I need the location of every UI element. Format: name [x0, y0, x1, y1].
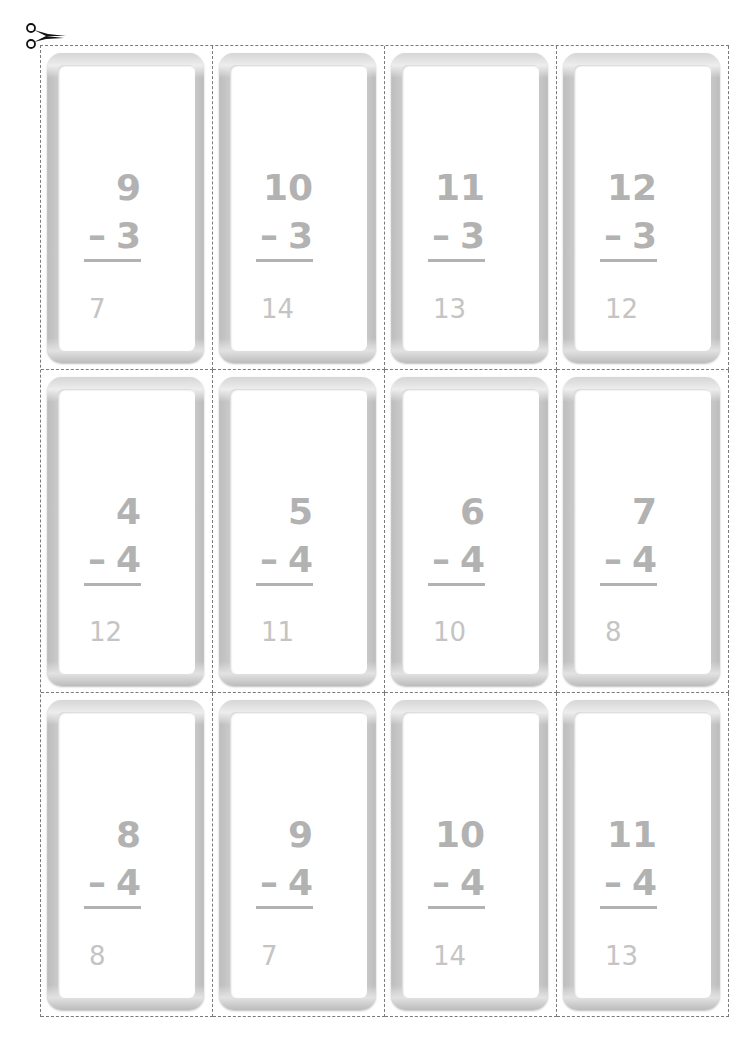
- subtraction-problem: 9 –4: [256, 810, 313, 909]
- answer-number: 13: [433, 296, 466, 322]
- card-frame: 6 –4 10: [391, 377, 548, 687]
- minuend: 11: [428, 163, 485, 213]
- answer-number: 8: [89, 943, 106, 969]
- subtrahend: 4: [632, 539, 657, 580]
- minuend: 4: [84, 487, 141, 537]
- subtrahend: 4: [632, 862, 657, 903]
- subtrahend: 4: [460, 539, 485, 580]
- card-frame: 12 –3 12: [563, 53, 720, 363]
- card-frame: 11 –4 13: [563, 700, 720, 1010]
- flashcard: 7 –4 8: [557, 370, 729, 694]
- card-frame: 8 –4 8: [47, 700, 204, 1010]
- subtrahend: 4: [288, 539, 313, 580]
- flashcard: 9 –3 7: [41, 46, 213, 370]
- minus-sign: –: [604, 539, 622, 580]
- flashcard: 10 –4 14: [385, 693, 557, 1017]
- minus-sign: –: [604, 862, 622, 903]
- answer-number: 11: [261, 619, 294, 645]
- answer-number: 12: [605, 296, 638, 322]
- answer-number: 13: [605, 943, 638, 969]
- subtraction-problem: 8 –4: [84, 810, 141, 909]
- flashcard: 11 –3 13: [385, 46, 557, 370]
- answer-number: 12: [89, 619, 122, 645]
- card-frame: 4 –4 12: [47, 377, 204, 687]
- card-frame: 10 –3 14: [219, 53, 376, 363]
- minus-sign: –: [88, 539, 106, 580]
- minus-sign: –: [604, 215, 622, 256]
- answer-number: 8: [605, 619, 622, 645]
- flashcard: 5 –4 11: [213, 370, 385, 694]
- flashcard: 11 –4 13: [557, 693, 729, 1017]
- flashcard: 6 –4 10: [385, 370, 557, 694]
- subtrahend: 3: [116, 215, 141, 256]
- answer-number: 7: [261, 943, 278, 969]
- flashcard: 8 –4 8: [41, 693, 213, 1017]
- minuend: 8: [84, 810, 141, 860]
- subtrahend: 3: [632, 215, 657, 256]
- flashcard: 10 –3 14: [213, 46, 385, 370]
- minus-sign: –: [260, 862, 278, 903]
- subtrahend: 4: [460, 862, 485, 903]
- flashcard-sheet: 9 –3 7 10 –3 14 11 –3 13 12 –3: [40, 45, 729, 1017]
- minus-sign: –: [260, 539, 278, 580]
- minuend: 5: [256, 487, 313, 537]
- subtrahend: 3: [460, 215, 485, 256]
- subtraction-problem: 12 –3: [600, 163, 657, 262]
- minuend: 9: [256, 810, 313, 860]
- minuend: 9: [84, 163, 141, 213]
- flashcard: 9 –4 7: [213, 693, 385, 1017]
- subtraction-problem: 7 –4: [600, 487, 657, 586]
- flashcard: 12 –3 12: [557, 46, 729, 370]
- minus-sign: –: [432, 215, 450, 256]
- subtraction-problem: 4 –4: [84, 487, 141, 586]
- minus-sign: –: [88, 862, 106, 903]
- subtraction-problem: 11 –4: [600, 810, 657, 909]
- answer-number: 14: [433, 943, 466, 969]
- flashcard: 4 –4 12: [41, 370, 213, 694]
- minuend: 11: [600, 810, 657, 860]
- subtraction-problem: 9 –3: [84, 163, 141, 262]
- minus-sign: –: [432, 862, 450, 903]
- minus-sign: –: [88, 215, 106, 256]
- card-frame: 5 –4 11: [219, 377, 376, 687]
- subtrahend: 4: [288, 862, 313, 903]
- subtraction-problem: 5 –4: [256, 487, 313, 586]
- minuend: 12: [600, 163, 657, 213]
- answer-number: 14: [261, 296, 294, 322]
- card-frame: 9 –4 7: [219, 700, 376, 1010]
- minuend: 10: [428, 810, 485, 860]
- subtrahend: 3: [288, 215, 313, 256]
- subtraction-problem: 11 –3: [428, 163, 485, 262]
- subtraction-problem: 10 –4: [428, 810, 485, 909]
- minus-sign: –: [260, 215, 278, 256]
- subtrahend: 4: [116, 862, 141, 903]
- minus-sign: –: [432, 539, 450, 580]
- card-frame: 11 –3 13: [391, 53, 548, 363]
- card-frame: 7 –4 8: [563, 377, 720, 687]
- minuend: 6: [428, 487, 485, 537]
- minuend: 7: [600, 487, 657, 537]
- subtraction-problem: 6 –4: [428, 487, 485, 586]
- subtrahend: 4: [116, 539, 141, 580]
- minuend: 10: [256, 163, 313, 213]
- card-frame: 9 –3 7: [47, 53, 204, 363]
- answer-number: 7: [89, 296, 106, 322]
- subtraction-problem: 10 –3: [256, 163, 313, 262]
- answer-number: 10: [433, 619, 466, 645]
- card-frame: 10 –4 14: [391, 700, 548, 1010]
